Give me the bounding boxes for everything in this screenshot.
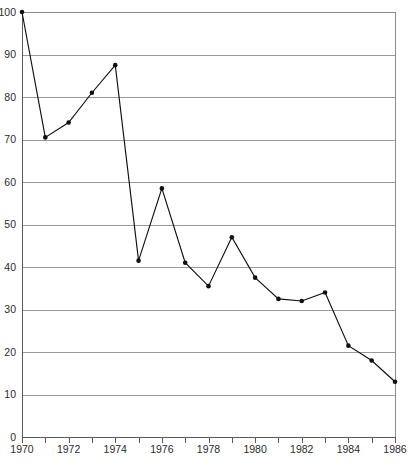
- y-tick-label-40: 40: [4, 261, 16, 273]
- y-tick-label-50: 50: [4, 218, 16, 230]
- y-tick-label-100: 100: [0, 6, 16, 18]
- y-tick-label-10: 10: [4, 388, 16, 400]
- line-chart-figure: 0102030405060708090100 19701972197419761…: [0, 0, 409, 474]
- data-point-1985: [369, 358, 374, 363]
- data-point-1974: [113, 63, 118, 68]
- x-tick-label-1978: 1978: [197, 443, 221, 455]
- y-tick-label-20: 20: [4, 346, 16, 358]
- data-point-1980: [253, 275, 258, 280]
- y-tick-label-60: 60: [4, 176, 16, 188]
- x-tick-label-1980: 1980: [243, 443, 267, 455]
- x-tick-label-1982: 1982: [290, 443, 314, 455]
- data-series: [22, 12, 395, 382]
- data-point-1977: [183, 260, 188, 265]
- data-point-1972: [66, 120, 71, 125]
- data-point-1982: [299, 299, 304, 304]
- chart-canvas: 0102030405060708090100 19701972197419761…: [0, 0, 409, 474]
- data-point-1975: [136, 258, 141, 263]
- y-tick-label-30: 30: [4, 303, 16, 315]
- data-point-1978: [206, 284, 211, 289]
- x-tick-label-1972: 1972: [57, 443, 81, 455]
- data-point-1986: [393, 379, 398, 384]
- data-point-1970: [20, 10, 25, 15]
- data-point-1979: [230, 235, 235, 240]
- axis-lines: [23, 11, 396, 438]
- series-line-series-1: [22, 12, 395, 382]
- chart-page: 0102030405060708090100 19701972197419761…: [0, 0, 409, 474]
- x-axis-tick-labels: 197019721974197619781980198219841986: [10, 443, 407, 455]
- y-tick-label-90: 90: [4, 48, 16, 60]
- data-point-1976: [160, 186, 165, 191]
- x-tick-label-1970: 1970: [10, 443, 34, 455]
- y-tick-label-70: 70: [4, 133, 16, 145]
- y-tick-label-0: 0: [10, 431, 16, 443]
- x-tick-label-1974: 1974: [104, 443, 128, 455]
- x-tick-label-1976: 1976: [150, 443, 174, 455]
- data-point-1971: [43, 135, 48, 140]
- data-point-1981: [276, 297, 281, 302]
- y-axis-tick-labels: 0102030405060708090100: [0, 6, 16, 443]
- x-tick-label-1984: 1984: [337, 443, 361, 455]
- x-axis-ticks: [23, 438, 396, 443]
- y-tick-label-80: 80: [4, 91, 16, 103]
- data-point-1973: [90, 90, 95, 95]
- x-tick-label-1986: 1986: [383, 443, 407, 455]
- data-point-1983: [323, 290, 328, 295]
- data-point-1984: [346, 343, 351, 348]
- gridlines: [23, 13, 396, 396]
